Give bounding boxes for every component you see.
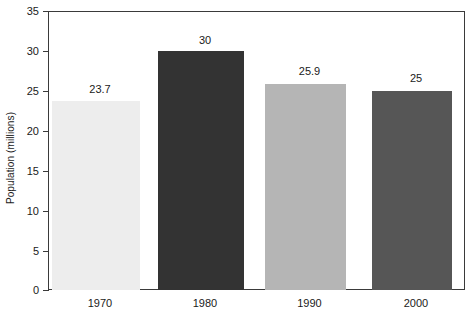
y-tick-label-15: 15 xyxy=(0,166,39,177)
y-tick-label-35: 35 xyxy=(0,6,39,17)
bar-1990[interactable] xyxy=(265,84,346,290)
y-tick-label-30: 30 xyxy=(0,46,39,57)
bar-1980[interactable] xyxy=(158,51,244,290)
value-label-2000: 25 xyxy=(376,73,456,84)
x-tick-label-1990: 1990 xyxy=(269,297,350,309)
value-label-1990: 25.9 xyxy=(269,66,350,77)
y-tick-label-0: 0 xyxy=(0,285,39,296)
x-tick-label-1970: 1970 xyxy=(56,297,144,309)
y-tick-label-10: 10 xyxy=(0,206,39,217)
y-tick-mark xyxy=(43,290,49,291)
y-tick-label-20: 20 xyxy=(0,126,39,137)
y-tick-label-5: 5 xyxy=(0,246,39,257)
bar-1970[interactable] xyxy=(52,101,140,290)
value-label-1980: 30 xyxy=(162,35,248,46)
bars-layer xyxy=(48,11,465,290)
x-tick-label-2000: 2000 xyxy=(376,297,456,309)
value-label-1970: 23.7 xyxy=(56,84,144,95)
x-tick-label-1980: 1980 xyxy=(162,297,248,309)
y-tick-label-25: 25 xyxy=(0,86,39,97)
bar-chart: Population (millions) 35 30 25 20 15 10 xyxy=(0,0,473,316)
bar-2000[interactable] xyxy=(372,91,452,290)
